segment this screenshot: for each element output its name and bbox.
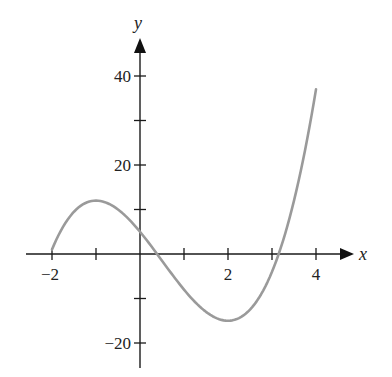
y-tick-label: 20 — [114, 156, 131, 175]
x-tick-label: 2 — [224, 265, 233, 284]
y-tick-label: 40 — [114, 67, 131, 86]
y-tick-label: −20 — [104, 334, 131, 353]
x-tick-label: −2 — [41, 265, 59, 284]
y-axis-label: y — [132, 13, 142, 33]
function-curve — [52, 89, 316, 320]
x-axis-arrow-icon — [340, 248, 354, 260]
x-tick-labels: −224 — [41, 265, 321, 284]
x-axis-label: x — [358, 244, 367, 264]
function-graph: x y −224 4020−20 — [0, 0, 392, 377]
y-axis-arrow-icon — [134, 38, 146, 53]
x-tick-label: 4 — [312, 265, 321, 284]
